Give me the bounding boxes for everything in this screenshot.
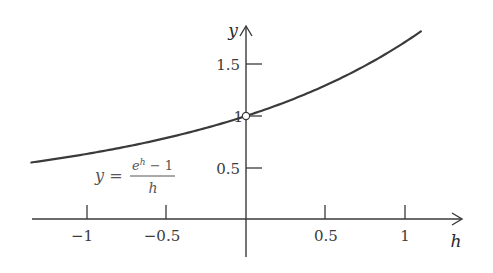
x-tick-label: −0.5 [144, 227, 180, 245]
open-point-marker [242, 112, 249, 119]
formula-denominator: h [148, 180, 157, 196]
function-curve [31, 31, 421, 162]
chart-canvas: −1 −0.5 0.5 1 h 1.5 1 0.5 y y = eh − 1 h [0, 0, 493, 273]
x-tick-label: −1 [71, 227, 93, 245]
x-tick-label: 1 [400, 227, 410, 245]
y-axis: 1.5 1 0.5 y [216, 20, 262, 257]
formula-num-rest: − 1 [146, 158, 173, 173]
x-axis: −1 −0.5 0.5 1 h [32, 205, 462, 251]
y-tick-label: 0.5 [216, 160, 240, 178]
x-axis-label: h [451, 231, 462, 251]
x-tick-label: 0.5 [314, 227, 338, 245]
formula-lhs: y = [94, 166, 123, 185]
y-tick-label: 1.5 [216, 56, 240, 74]
formula-numerator: eh − 1 [132, 157, 173, 173]
formula-label: y = eh − 1 h [94, 157, 175, 196]
y-axis-label: y [227, 20, 238, 40]
